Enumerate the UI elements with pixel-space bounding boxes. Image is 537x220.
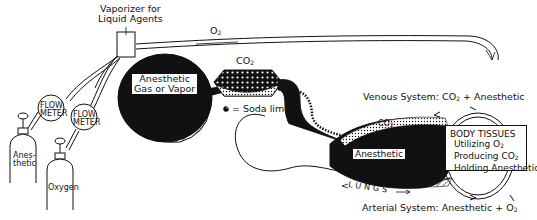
body-tissues-line-o2: Utilizing O2	[450, 139, 523, 151]
bag-label-line2: Gas or Vapor	[134, 84, 195, 94]
body-tissues-box: BODY TISSUES Utilizing O2 Producing CO2 …	[445, 125, 527, 171]
soda-lime-symbol	[224, 107, 229, 112]
vaporizer-label-line2: Liquid Agents	[98, 14, 163, 24]
anesthesia-bag	[118, 54, 212, 142]
bag-label: Anesthetic Gas or Vapor	[132, 74, 197, 94]
vaporizer-box	[117, 32, 135, 57]
body-tissues-line-anesthetic: Holding Anesthetic	[450, 163, 523, 173]
oxygen-tank-label: Oxygen	[48, 184, 79, 192]
canister-co2-label: CO2	[236, 56, 254, 68]
anesthetic-tank-line2: thetic	[13, 160, 36, 168]
soda-lime-canister	[214, 70, 282, 96]
soda-lime-legend: = Soda lime	[232, 104, 290, 114]
body-tissues-line-co2: Producing CO2	[450, 151, 523, 163]
lungs-o2-label: O2	[420, 176, 430, 185]
flow-meter-2-label: FLOW METER	[73, 111, 95, 127]
bag-o2-label: O2	[168, 118, 178, 127]
body-tissues-title: BODY TISSUES	[450, 129, 523, 139]
o2-supply-tube	[136, 36, 498, 60]
flow-meter-2-line2: METER	[73, 119, 95, 127]
flow-meter-1-label: FLOW METER	[40, 102, 62, 118]
venous-system-label: Venous System: CO2 + Anesthetic	[363, 92, 525, 104]
flowmeter-tubes	[66, 56, 120, 108]
anesthetic-tank	[10, 113, 36, 183]
arterial-system-label: Arterial System: Anesthetic + O2	[362, 203, 517, 215]
lungs-anesthetic-label: Anesthetic	[353, 149, 405, 159]
vaporizer-label: Vaporizer for Liquid Agents	[98, 4, 163, 24]
lungs-co2-label: CO2	[378, 120, 394, 129]
flow-meter-1-line2: METER	[40, 110, 62, 118]
o2-supply-label: O2	[210, 26, 221, 38]
anesthetic-tank-label: Anes- thetic	[13, 152, 36, 168]
